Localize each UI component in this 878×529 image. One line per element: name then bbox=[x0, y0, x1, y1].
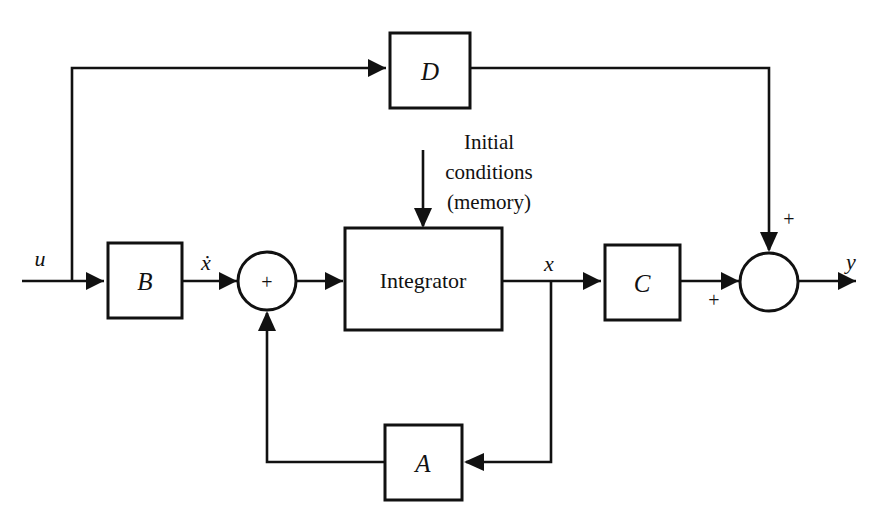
arrowhead-into-left-sum bbox=[219, 272, 237, 290]
sign-marker-right-sum-top: + bbox=[783, 208, 794, 230]
block-d-label: D bbox=[420, 58, 439, 85]
arrowhead-a-into-left-sum bbox=[258, 311, 276, 331]
block-c-label: C bbox=[634, 270, 651, 297]
arrowhead-into-c bbox=[583, 272, 601, 290]
arrowhead-d-into-sum bbox=[760, 232, 778, 252]
summing-junction-left-sign: + bbox=[261, 271, 272, 293]
arrowhead-output-y bbox=[838, 272, 856, 290]
signal-label-x: x bbox=[543, 251, 554, 276]
arrowhead-c-into-sum bbox=[721, 272, 739, 290]
initial-conditions-line-2: conditions bbox=[445, 160, 533, 184]
sign-marker-right-sum-left: + bbox=[708, 289, 719, 311]
signal-label-x-dot: ẋ bbox=[200, 250, 211, 275]
block-b-label: B bbox=[137, 268, 152, 295]
wire-d-to-output-sum bbox=[470, 68, 769, 250]
block-a-label: A bbox=[413, 450, 431, 477]
arrowhead-into-integrator bbox=[325, 272, 343, 290]
arrowhead-into-a bbox=[464, 453, 484, 471]
block-layer: D B Integrator C A bbox=[108, 33, 680, 500]
arrowhead-into-d bbox=[368, 59, 386, 77]
initial-conditions-line-1: Initial bbox=[464, 130, 514, 154]
arrowhead-into-b bbox=[86, 272, 104, 290]
block-diagram-canvas: D B Integrator C A + u ẋ x y + + Initia bbox=[0, 0, 878, 529]
block-diagram-svg: D B Integrator C A + u ẋ x y + + Initia bbox=[0, 0, 878, 529]
arrowhead-initial-conditions bbox=[414, 208, 432, 228]
block-integrator-label: Integrator bbox=[380, 268, 467, 293]
signal-label-u: u bbox=[35, 246, 46, 271]
wire-a-to-sum bbox=[267, 313, 385, 462]
initial-conditions-line-3: (memory) bbox=[447, 190, 531, 214]
signal-label-y: y bbox=[844, 249, 856, 274]
summing-junction-right[interactable] bbox=[740, 253, 798, 311]
